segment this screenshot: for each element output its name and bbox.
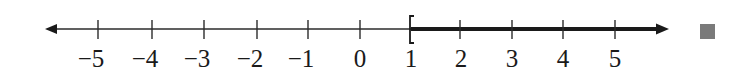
- tick-label: 0: [354, 45, 367, 72]
- tick-label: 5: [609, 45, 622, 72]
- tick-label: 1: [405, 45, 418, 72]
- tick-label: −2: [237, 45, 264, 72]
- tick-label: 4: [557, 45, 570, 72]
- tick-label: −4: [132, 45, 159, 72]
- number-line-svg: −5 −4 −3 −2 −1 0 1 2 3 4 5: [0, 0, 756, 81]
- tick-label: 2: [455, 45, 468, 72]
- left-arrow-icon: [45, 24, 57, 34]
- end-marker-square-icon: [700, 24, 715, 39]
- tick-labels: −5 −4 −3 −2 −1 0 1 2 3 4 5: [78, 45, 622, 72]
- tick-label: −1: [288, 45, 315, 72]
- number-line-figure: −5 −4 −3 −2 −1 0 1 2 3 4 5: [0, 0, 756, 81]
- tick-label: −3: [184, 45, 211, 72]
- right-arrow-icon: [656, 24, 669, 35]
- tick-label: −5: [78, 45, 105, 72]
- tick-label: 3: [506, 45, 519, 72]
